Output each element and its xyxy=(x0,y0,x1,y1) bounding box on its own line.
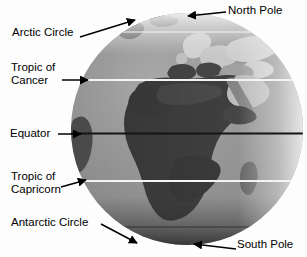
label-north-pole: North Pole xyxy=(228,4,282,17)
label-antarctic-circle: Antarctic Circle xyxy=(11,216,88,229)
label-equator: Equator xyxy=(10,127,50,140)
label-tropic-of-capricorn-line2: Capricorn xyxy=(11,183,61,195)
label-tropic-of-cancer-line2: Cancer xyxy=(11,74,48,86)
south-pole-arrow xyxy=(194,244,236,249)
globe-limb-highlight xyxy=(71,13,303,245)
label-tropic-of-cancer-line1: Tropic of xyxy=(11,61,55,73)
label-tropic-of-capricorn-line1: Tropic of xyxy=(11,170,55,182)
globe-sphere xyxy=(67,13,303,248)
label-tropic-of-cancer: Tropic ofCancer xyxy=(11,61,55,86)
label-south-pole: South Pole xyxy=(237,238,293,251)
tropic-of-capricorn-arrow xyxy=(61,180,86,187)
label-arctic-circle: Arctic Circle xyxy=(12,26,73,39)
label-tropic-of-capricorn: Tropic ofCapricorn xyxy=(11,170,61,195)
globe-diagram-figure: North Pole Arctic Circle Tropic ofCancer… xyxy=(0,0,307,257)
